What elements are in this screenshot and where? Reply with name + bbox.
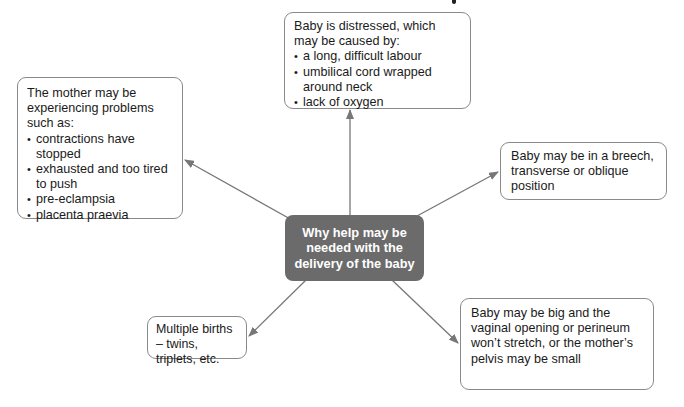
node-text: Baby may be in a breech, transverse or o… xyxy=(511,149,656,195)
node-text: Baby may be big and the vaginal opening … xyxy=(471,306,643,367)
node-mother-problems: The mother may be experiencing problems … xyxy=(17,77,183,219)
node-baby-big: Baby may be big and the vaginal opening … xyxy=(460,298,654,390)
node-intro: The mother may be experiencing problems … xyxy=(27,86,173,132)
central-topic-line: Why help may be xyxy=(294,225,414,241)
bullet-item: a long, difficult labour xyxy=(294,49,461,64)
arrow-to-bottom-left xyxy=(249,280,306,336)
bullet-item: contractions have stopped xyxy=(27,132,173,162)
arrow-to-left xyxy=(185,160,292,220)
node-intro: Baby is distressed, which may be caused … xyxy=(294,19,461,49)
bullet-item: lack of oxygen xyxy=(294,95,461,110)
node-baby-position: Baby may be in a breech, transverse or o… xyxy=(500,142,667,200)
central-topic: Why help may be needed with the delivery… xyxy=(285,215,424,281)
arrow-to-right xyxy=(417,172,498,216)
node-baby-distressed: Baby is distressed, which may be caused … xyxy=(284,12,471,109)
bullet-item: pre-eclampsia xyxy=(27,192,173,207)
central-topic-line: needed with the xyxy=(294,240,414,256)
bullet-item: umbilical cord wrapped around neck xyxy=(294,65,461,95)
arrow-to-bottom-right xyxy=(392,280,458,343)
bullet-item: exhausted and too tired to push xyxy=(27,162,173,192)
node-multiple-births: Multiple births – twins, triplets, etc. xyxy=(147,316,247,359)
bullet-item: placenta praevia xyxy=(27,208,173,223)
node-text: Multiple births – twins, triplets, etc. xyxy=(156,322,238,368)
central-topic-line: delivery of the baby xyxy=(294,256,414,272)
